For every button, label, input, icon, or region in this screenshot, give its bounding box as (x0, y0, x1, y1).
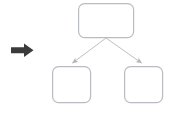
connector-parent-to-child-right (106, 38, 142, 63)
diagram-canvas (0, 0, 175, 113)
child-node-right-box[interactable] (125, 67, 163, 103)
child-node-left[interactable] (53, 67, 91, 103)
right-arrow-icon (11, 43, 34, 57)
flowchart-svg (0, 0, 175, 113)
connector-parent-to-child-left (73, 38, 107, 63)
child-node-right[interactable] (125, 67, 163, 103)
parent-node[interactable] (79, 4, 134, 38)
child-node-left-box[interactable] (53, 67, 91, 103)
parent-node-box[interactable] (79, 4, 134, 38)
connector-group (73, 38, 142, 63)
